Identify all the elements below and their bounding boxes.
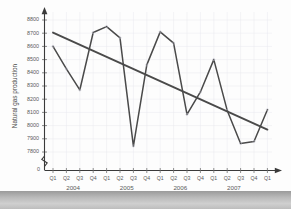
x-axis-year-label: 2006 (173, 184, 187, 191)
x-axis-year-label: 2005 (120, 184, 134, 191)
x-axis-quarter-label: Q1 (157, 175, 164, 181)
slide-footer-band (0, 191, 291, 209)
y-axis-tick-label: 8100 (27, 109, 39, 115)
x-axis-quarter-label: Q2 (117, 175, 124, 181)
chart-svg: 7800790080008100820083008400850086008700… (0, 0, 291, 191)
x-axis-quarter-label: Q3 (76, 175, 83, 181)
x-axis-quarter-label: Q4 (251, 175, 258, 181)
y-axis-tick-label: 8200 (27, 96, 39, 102)
x-axis-quarter-label: Q4 (143, 175, 150, 181)
y-axis-tick-label: 8400 (27, 69, 39, 75)
x-axis-quarter-label: Q3 (184, 175, 191, 181)
y-axis-tick-label: 7800 (27, 148, 39, 154)
x-axis-quarter-label: Q4 (90, 175, 97, 181)
x-axis-quarter-label: Q1 (103, 175, 110, 181)
slide-canvas: 7800790080008100820083008400850086008700… (0, 0, 291, 209)
x-axis-quarter-label: Q3 (130, 175, 137, 181)
y-axis-zero-label: 0 (37, 166, 40, 172)
x-axis-quarter-label: Q1 (210, 175, 217, 181)
y-axis-tick-label: 8800 (27, 16, 39, 22)
y-axis-tick-label: 8300 (27, 82, 39, 88)
x-axis-year-label: 2004 (66, 184, 80, 191)
x-axis-quarter-label: Q3 (237, 175, 244, 181)
x-axis-quarter-label: Q4 (197, 175, 204, 181)
x-axis-quarter-labels: Q1Q2Q3Q4Q1Q2Q3Q4Q1Q2Q3Q4Q1Q2Q3Q4Q1 (50, 175, 271, 181)
y-axis-tick-label: 7900 (27, 135, 39, 141)
natural-gas-production-chart: 7800790080008100820083008400850086008700… (0, 0, 291, 191)
y-axis-title: Natural gas production (11, 63, 19, 128)
x-axis-year-label: 2007 (227, 184, 241, 191)
x-axis-quarter-label: Q2 (63, 175, 70, 181)
chart-background (0, 0, 291, 191)
x-axis-quarter-label: Q1 (50, 175, 57, 181)
y-axis-tick-label: 8600 (27, 43, 39, 49)
y-axis-tick-label: 8700 (27, 30, 39, 36)
y-axis-tick-label: 8000 (27, 122, 39, 128)
x-axis-quarter-label: Q1 (264, 175, 271, 181)
x-axis-quarter-label: Q2 (224, 175, 231, 181)
x-axis-quarter-label: Q2 (170, 175, 177, 181)
y-axis-tick-label: 8500 (27, 56, 39, 62)
